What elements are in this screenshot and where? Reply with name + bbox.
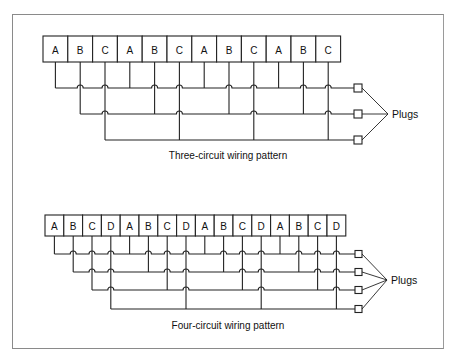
outlet-label: A — [52, 45, 59, 56]
outlet-label: B — [300, 45, 307, 56]
outlet-b: B — [64, 215, 83, 236]
outlet-label: C — [88, 221, 95, 232]
outlet-b: B — [291, 36, 316, 62]
four-circuit-diagram: ABCDABCDABCDABCD — [45, 215, 387, 313]
outlet-label: C — [176, 45, 183, 56]
outlet-label: C — [164, 221, 171, 232]
outlet-c: C — [316, 36, 341, 62]
outlet-label: B — [220, 221, 227, 232]
plug-leader-line — [362, 114, 388, 140]
outlet-label: C — [314, 221, 321, 232]
bus-wire-c — [92, 287, 355, 290]
plug-a — [355, 251, 362, 258]
outlet-b: B — [142, 36, 167, 62]
outlet-c: C — [158, 215, 177, 236]
outlet-b: B — [68, 36, 93, 62]
outlet-label: C — [101, 45, 108, 56]
outlet-a: A — [192, 36, 217, 62]
wiring-diagram-canvas: ABCABCABCABC ABCDABCDABCDABCD Three-circ… — [0, 0, 456, 358]
plug-b — [354, 110, 362, 118]
outlet-b: B — [217, 36, 242, 62]
outlet-a: A — [45, 215, 64, 236]
outlet-label: B — [70, 221, 77, 232]
outlet-b: B — [289, 215, 308, 236]
three-circuit-caption: Three-circuit wiring pattern — [169, 150, 287, 161]
plug-leader-line — [362, 88, 388, 114]
outlet-a: A — [43, 36, 68, 62]
outlet-b: B — [139, 215, 158, 236]
outlet-label: A — [275, 45, 282, 56]
outlet-label: A — [201, 45, 208, 56]
outlet-label: D — [258, 221, 265, 232]
outlet-c: C — [308, 215, 327, 236]
plug-a — [354, 84, 362, 92]
outlet-label: A — [126, 45, 133, 56]
outlet-label: A — [51, 221, 58, 232]
outlet-a: A — [117, 36, 142, 62]
outlet-c: C — [233, 215, 252, 236]
outlet-d: D — [327, 215, 346, 236]
outlet-a: A — [195, 215, 214, 236]
outlet-label: A — [126, 221, 133, 232]
outlet-label: B — [295, 221, 302, 232]
bus-wire-b — [73, 269, 355, 272]
plug-d — [355, 306, 362, 313]
four-circuit-plugs-label: Plugs — [391, 274, 417, 286]
three-circuit-diagram: ABCABCABCABC — [43, 36, 388, 144]
outlet-c: C — [83, 215, 102, 236]
outlet-label: B — [226, 45, 233, 56]
four-circuit-caption: Four-circuit wiring pattern — [172, 320, 285, 331]
outlet-label: C — [250, 45, 257, 56]
outlet-c: C — [93, 36, 118, 62]
outlet-label: A — [201, 221, 208, 232]
plug-c — [354, 136, 362, 144]
bus-wire-b — [80, 111, 354, 114]
outlet-d: D — [177, 215, 196, 236]
outlet-d: D — [252, 215, 271, 236]
outlet-label: D — [107, 221, 114, 232]
plug-leader-line — [362, 280, 387, 309]
plug-c — [355, 287, 362, 294]
outlet-a: A — [120, 215, 139, 236]
outlet-label: B — [151, 45, 158, 56]
outlet-label: D — [182, 221, 189, 232]
outlet-label: B — [145, 221, 152, 232]
outlet-a: A — [271, 215, 290, 236]
outlet-label: A — [277, 221, 284, 232]
outlet-c: C — [167, 36, 192, 62]
outlet-d: D — [101, 215, 120, 236]
outlet-label: D — [333, 221, 340, 232]
outlet-label: B — [77, 45, 84, 56]
outlet-c: C — [241, 36, 266, 62]
outlet-a: A — [266, 36, 291, 62]
outlet-label: C — [325, 45, 332, 56]
three-circuit-plugs-label: Plugs — [392, 108, 418, 120]
outlet-label: C — [239, 221, 246, 232]
outlet-b: B — [214, 215, 233, 236]
plug-b — [355, 269, 362, 276]
